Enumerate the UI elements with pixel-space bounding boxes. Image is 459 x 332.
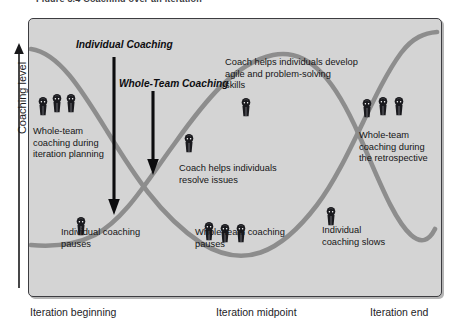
people-group-planning [67,94,76,112]
annotation-individual-coaching-pauses: Individual coaching pauses [61,227,179,250]
person-resolve-issues [185,134,194,152]
annotation-coach-helps-develop: Coach helps individuals develop agile an… [225,57,415,92]
arrow-whole-team-coaching [147,91,159,175]
x-label-iteration-midpoint: Iteration midpoint [216,306,297,318]
person-coaching-slows [327,207,336,225]
y-axis-label: Coaching level [16,28,28,168]
people-group-planning [53,94,62,112]
people-group-retrospective [363,99,372,117]
people-group-retrospective [379,97,388,115]
people-group-retrospective [395,97,404,115]
annotation-individual-coaching-slows: Individual coaching slows [322,225,422,248]
figure-root: Figure 3.4 Coaching over an iteration Co… [0,0,459,332]
annotation-coach-resolve-issues: Coach helps individuals resolve issues [179,163,329,186]
person-develop-skills [242,98,251,116]
annotation-whole-team-planning: Whole-team coaching during iteration pla… [33,126,138,161]
x-label-iteration-end: Iteration end [370,306,428,318]
annotation-whole-team-retrospective: Whole-team coaching during the retrospec… [359,130,442,165]
x-axis-labels: Iteration beginning Iteration midpoint I… [0,302,459,326]
figure-caption: Figure 3.4 Coaching over an iteration [36,0,202,2]
x-label-iteration-beginning: Iteration beginning [30,306,116,318]
label-individual-coaching: Individual Coaching [76,39,173,50]
label-whole-team-coaching: Whole-Team Coaching [119,78,228,89]
annotation-whole-team-coaching-pauses: Whole-team coaching pauses [195,227,325,250]
people-group-planning [39,97,48,115]
chart-panel: Individual Coaching Whole-Team Coaching … [28,18,442,297]
